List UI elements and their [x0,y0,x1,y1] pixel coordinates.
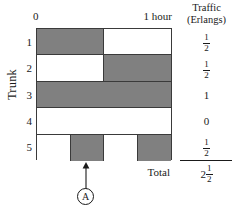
fraction-denominator: 2 [203,148,210,159]
trunk-row-2 [37,55,171,81]
traffic-header-line2: (Erlangs) [176,14,237,26]
row-label-5: 5 [18,141,32,153]
trunk-5-busy-segment-2 [138,135,172,161]
fraction-denominator: 2 [206,174,213,185]
traffic-value-row-3: 1 [176,89,237,101]
trunk-row-4 [37,108,171,134]
trunk-1-idle-segment [104,29,171,54]
callout-marker-a: A [77,188,94,205]
row-label-2: 2 [18,62,32,74]
traffic-value-row-1: 1 2 [176,33,237,53]
fraction-denominator: 2 [203,70,210,81]
trunk-row-1 [37,29,171,55]
traffic-erlangs-figure: 0 1 hour Traffic (Erlangs) Trunk 1 2 3 4… [0,0,237,213]
trunk-2-busy-segment [104,55,171,80]
row-label-4: 4 [18,115,32,127]
traffic-header-line1: Traffic [176,2,237,14]
fraction-one-half-3: 1 2 [203,138,210,158]
total-label: Total [120,166,170,178]
trunk-2-idle-segment [37,55,104,80]
y-axis-title: Trunk [6,57,19,113]
trunk-3-busy-segment [37,82,171,107]
traffic-column-header: Traffic (Erlangs) [176,2,237,25]
row-label-1: 1 [18,36,32,48]
trunk-5-idle-segment-1 [37,135,71,161]
traffic-value-row-4: 0 [176,115,237,127]
trunk-row-5 [37,135,171,161]
trunk-row-3 [37,82,171,108]
trunk-1-busy-segment [37,29,104,54]
trunk-4-idle-segment [37,108,171,133]
traffic-value-row-5: 1 2 [176,138,237,158]
occupancy-chart [36,28,172,160]
traffic-value-row-2: 1 2 [176,60,237,80]
callout-arrow-icon [80,162,92,190]
row-label-3: 3 [18,89,32,101]
total-fraction-part: 1 2 [206,164,213,184]
fraction-numerator: 1 [203,138,210,148]
fraction-one-half-1: 1 2 [203,33,210,53]
fraction-numerator: 1 [203,60,210,70]
trunk-5-idle-segment-2 [104,135,138,161]
axis-start-label: 0 [33,10,39,22]
fraction-one-half-2: 1 2 [203,60,210,80]
fraction-denominator: 2 [203,43,210,54]
trunk-5-busy-segment-1 [71,135,105,161]
fraction-numerator: 1 [206,164,213,174]
axis-end-label: 1 hour [118,10,172,22]
total-value: 2 1 2 [176,164,237,184]
fraction-numerator: 1 [203,33,210,43]
total-divider-rule [180,160,232,161]
